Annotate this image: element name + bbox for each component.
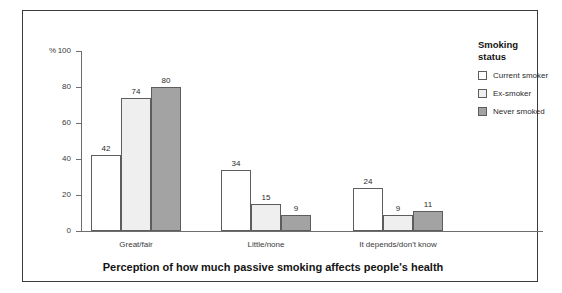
x-axis-category-label: It depends/don't know (323, 240, 473, 249)
bar-value-label: 15 (251, 193, 281, 202)
plot-area: 4274803415924911 (81, 51, 543, 231)
y-axis-tick-label: 0 (23, 227, 71, 235)
bar-value-label: 42 (91, 144, 121, 153)
legend-swatch-icon (478, 71, 487, 80)
legend-item-label: Current smoker (493, 71, 548, 80)
x-axis-line (81, 231, 543, 232)
bar (251, 204, 281, 231)
bar (413, 211, 443, 231)
bar (151, 87, 181, 231)
bar-value-label: 34 (221, 159, 251, 168)
legend-items: Current smokerEx-smokerNever smoked (478, 71, 562, 116)
bar (383, 215, 413, 231)
bar-value-label: 9 (383, 204, 413, 213)
legend-item: Never smoked (478, 107, 562, 116)
x-axis-category-label: Little/none (191, 240, 341, 249)
y-axis-tick-label: 60 (23, 119, 71, 127)
bar (281, 215, 311, 231)
legend-swatch-icon (478, 89, 487, 98)
x-axis-title: Perception of how much passive smoking a… (63, 261, 483, 274)
legend-item: Current smoker (478, 71, 562, 80)
y-axis-tick-label: 80 (23, 83, 71, 91)
bar-value-label: 74 (121, 87, 151, 96)
legend-item: Ex-smoker (478, 89, 562, 98)
bar (221, 170, 251, 231)
y-axis-tick-label: 40 (23, 155, 71, 163)
bar (353, 188, 383, 231)
bar-value-label: 9 (281, 204, 311, 213)
bar (91, 155, 121, 231)
legend-item-label: Ex-smoker (493, 89, 531, 98)
x-axis-category-label: Great/fair (61, 240, 211, 249)
chart-frame: % 020406080100 4274803415924911 Great/fa… (22, 10, 538, 282)
bar-value-label: 80 (151, 76, 181, 85)
legend: Smoking status Current smokerEx-smokerNe… (478, 39, 562, 125)
y-axis-tick-label: 100 (23, 47, 71, 55)
chart-figure: % 020406080100 4274803415924911 Great/fa… (0, 0, 562, 293)
bar-value-label: 24 (353, 177, 383, 186)
legend-swatch-icon (478, 107, 487, 116)
y-axis-tick-label: 20 (23, 191, 71, 199)
bar (121, 98, 151, 231)
bar-value-label: 11 (413, 200, 443, 209)
y-axis-tick-mark (76, 231, 81, 232)
legend-title: Smoking status (478, 39, 562, 62)
legend-item-label: Never smoked (493, 107, 545, 116)
